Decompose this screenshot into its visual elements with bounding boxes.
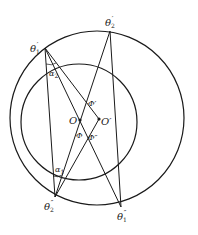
label-phi-prime: Φ′ (88, 99, 97, 108)
line-theta1p-Op (45, 48, 99, 119)
inner-circle (21, 64, 137, 180)
label-theta1-prime: θ1′ (30, 41, 40, 55)
geometry-diagram: θ1′ θ2′ O O′ θ2″ θ1″ α2 α1 Φ′ Φ Φ″ (0, 0, 198, 235)
label-O-prime: O′ (101, 116, 112, 127)
label-theta2-prime: θ2′ (105, 15, 115, 29)
label-alpha2: α2 (49, 69, 58, 79)
label-O: O (69, 115, 77, 126)
label-alpha1: α1 (55, 165, 64, 175)
label-theta1-dprime: θ1″ (117, 209, 127, 223)
outer-circle (10, 31, 184, 205)
label-phi: Φ (76, 131, 83, 140)
point-O (78, 118, 81, 121)
label-theta2-dprime: θ2″ (44, 199, 54, 213)
line-theta2p-theta1pp (110, 31, 121, 207)
angle-arc-alpha2 (46, 63, 56, 65)
label-phi-dprime: Φ″ (88, 133, 98, 142)
